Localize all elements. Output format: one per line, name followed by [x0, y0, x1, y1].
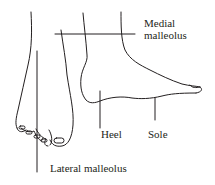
heel-label: Heel [101, 129, 122, 140]
foot-diagram [0, 0, 215, 185]
lateral-malleolus-label: Lateral malleolus [50, 163, 127, 174]
medial-malleolus-label-line2: malleolus [144, 30, 187, 41]
sole-label: Sole [148, 129, 168, 140]
front-view-foot [16, 12, 73, 146]
side-view-foot [81, 12, 202, 103]
medial-malleolus-label-line1: Medial [144, 18, 175, 29]
